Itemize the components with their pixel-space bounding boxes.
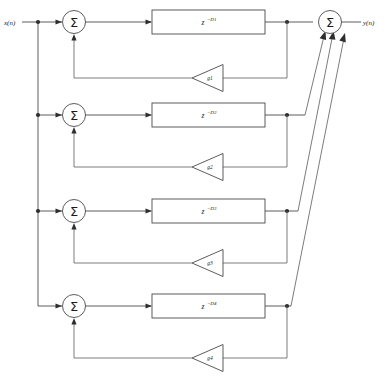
summer-symbol-4: Σ [70,299,78,314]
delay-block-3[interactable] [152,199,265,223]
summer-symbol-1: Σ [70,15,78,30]
delay-base-2: z [201,111,205,120]
summer-feedback-arrow-1 [71,34,76,41]
gain-label-3: g3 [207,260,213,266]
comb-section-2: Σ z −D2 g2 [56,103,306,181]
delay-block-4[interactable] [152,294,265,318]
delay-base-4: z [201,302,205,311]
comb-section-4: Σ z −D4 g4 [56,294,292,372]
delay-block-2[interactable] [152,103,265,127]
delay-input-arrow-1 [146,19,153,24]
summer-input-arrow-3 [56,208,63,213]
summer-input-arrow-1 [56,19,63,24]
input-tap-node-3 [36,209,40,213]
output-summer-symbol: Σ [326,15,334,30]
output-signal-label: y(n) [362,19,375,27]
delay-input-arrow-3 [146,208,153,213]
gain-label-4: g4 [207,355,213,361]
summer-feedback-arrow-2 [71,127,76,134]
input-bus [22,20,62,306]
output-summer-group: Σ [319,11,362,34]
input-tap-node-2 [36,113,40,117]
delay-exponent-1: −D1 [207,17,217,22]
gain-label-1: g1 [207,75,213,81]
output-summing-lines [291,31,346,306]
comb-section-1: Σ z −D1 g1 [56,10,314,92]
delay-block-1[interactable] [152,10,265,34]
delay-input-arrow-4 [146,303,153,308]
summer-symbol-2: Σ [70,108,78,123]
summer-input-arrow-4 [56,303,63,308]
summer-feedback-arrow-3 [71,223,76,230]
delay-exponent-2: −D2 [207,110,217,115]
comb-section-3: Σ z −D3 g3 [56,199,299,277]
delay-base-3: z [201,207,205,216]
summer-input-arrow-2 [56,112,63,117]
delay-base-1: z [201,18,205,27]
input-tap-node-1 [36,20,40,24]
summer-feedback-arrow-4 [71,318,76,325]
diagram-canvas: x(n) Σ z −D1 g1 Σ z −D2 g2 [0,0,391,386]
summer-symbol-3: Σ [70,204,78,219]
delay-exponent-3: −D3 [207,206,217,211]
input-signal-label: x(n) [3,19,16,27]
delay-input-arrow-2 [146,112,153,117]
output-summer-arrow-4 [339,33,346,42]
delay-exponent-4: −D4 [207,301,217,306]
gain-label-2: g2 [207,164,213,170]
comb-filter-bank-diagram: x(n) Σ z −D1 g1 Σ z −D2 g2 [0,0,391,386]
